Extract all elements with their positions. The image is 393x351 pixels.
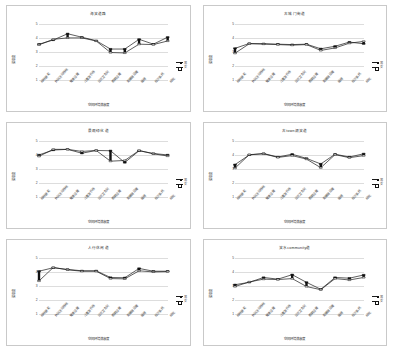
data-point-marker [291,274,294,275]
y-axis-tick-label: 2 [232,64,234,68]
plot-area: 54321绿地景观休闲活动场地健身设施儿童游乐场公共卫生间照明设施无障碍设施座椅… [39,141,168,197]
data-point-marker [234,48,237,49]
data-point-marker [95,150,98,151]
data-point-marker [277,279,280,280]
data-point-marker [320,167,323,168]
legend-label: 女 [184,182,187,187]
y-axis-tick-label: 4 [232,36,234,40]
panel-title: 人行休闲道 [7,245,190,250]
x-axis-title: 空间环境满意度 [204,336,387,341]
data-point-marker [248,281,251,282]
chart-panel-4: 古town湖滨道满意度空间环境满意度54321绿地景观休闲活动场地健身设施儿童游… [203,122,388,229]
legend-swatch-icon [372,62,379,63]
y-axis-tick-label: 1 [36,78,38,82]
x-axis-tick-label: 绿化 [168,310,176,318]
y-axis-tick-label: 4 [36,36,38,40]
y-axis-tick-label: 1 [36,195,38,199]
legend-swatch-icon [372,184,379,185]
data-point-marker [138,150,141,151]
legend-label: 女 [380,182,383,187]
x-axis-tick-label: 绿化 [364,193,372,201]
legend: 男女 [372,295,383,304]
data-point-marker [138,39,141,40]
data-point-marker [277,44,280,45]
data-point-marker [152,271,155,272]
data-point-marker [263,153,266,154]
x-axis-title: 空间环境满意度 [204,219,387,224]
data-point-marker [363,277,366,278]
series-line-女 [235,41,364,53]
data-point-marker [109,52,112,53]
y-axis-tick-label: 3 [36,167,38,171]
legend: 男女 [372,178,383,187]
y-axis-tick-label: 2 [36,64,38,68]
data-point-marker [306,158,309,159]
legend-item[interactable]: 女 [372,299,383,304]
data-point-marker [306,286,309,287]
data-point-marker [80,37,83,38]
legend-swatch-icon [176,62,183,63]
series-line-女 [39,38,168,53]
legend-item[interactable]: 女 [176,65,187,70]
data-point-marker [66,269,69,270]
chart-panel-1: 海滨道路满意度空间环境满意度54321绿地景观休闲活动场地健身设施儿童游乐场公共… [6,5,191,112]
legend-swatch-icon [372,179,379,180]
data-point-marker [52,267,55,268]
series-layer [39,24,168,80]
plot-area: 54321绿地景观休闲活动场地健身设施儿童游乐场公共卫生间照明设施无障碍设施座椅… [235,24,364,80]
small-multiples-grid: 海滨道路满意度空间环境满意度54321绿地景观休闲活动场地健身设施儿童游乐场公共… [0,0,393,351]
data-point-marker [348,42,351,43]
data-point-marker [348,279,351,280]
data-point-marker [66,33,69,34]
data-point-marker [320,163,323,164]
y-axis-tick-label: 2 [36,298,38,302]
legend-item[interactable]: 女 [176,182,187,187]
plot-area: 54321绿地景观休闲活动场地健身设施儿童游乐场公共卫生间照明设施无障碍设施座椅… [235,141,364,197]
data-point-marker [291,153,294,154]
x-axis-title: 空间环境满意度 [7,336,190,341]
panel-title: 古城门街道 [204,11,387,16]
data-point-marker [234,284,237,285]
data-point-marker [38,270,41,271]
x-axis-tick-label: 绿化 [168,76,176,84]
legend-swatch-icon [176,184,183,185]
data-point-marker [348,277,351,278]
legend-item[interactable]: 女 [372,182,383,187]
legend-label: 女 [184,299,187,304]
series-line-女 [235,277,364,289]
data-point-marker [123,52,126,53]
y-axis-tick-label: 5 [232,256,234,260]
data-point-marker [263,278,266,279]
series-layer [235,141,364,197]
series-layer [39,141,168,197]
y-axis-title: 满意度 [11,288,16,297]
data-point-marker [166,155,169,156]
data-point-marker [109,150,112,151]
data-point-marker [263,43,266,44]
legend: 男女 [176,61,187,70]
data-point-marker [138,270,141,271]
data-point-marker [263,277,266,278]
data-point-marker [109,160,112,161]
data-point-marker [306,44,309,45]
data-point-marker [291,155,294,156]
legend: 男女 [176,178,187,187]
data-point-marker [320,48,323,49]
x-axis-tick-label: 绿化 [364,310,372,318]
data-point-marker [291,44,294,45]
data-point-marker [138,268,141,269]
data-point-marker [248,43,251,44]
legend-item[interactable]: 女 [176,299,187,304]
legend-item[interactable]: 女 [372,65,383,70]
x-axis-tick-label: 绿化 [168,193,176,201]
y-axis-tick-label: 5 [36,139,38,143]
plot-area: 54321绿地景观休闲活动场地健身设施儿童游乐场公共卫生间照明设施无障碍设施座椅… [235,258,364,314]
data-point-marker [38,280,41,281]
data-point-marker [166,36,169,37]
y-axis-title: 满意度 [207,54,212,63]
y-axis-tick-label: 2 [232,181,234,185]
data-point-marker [123,162,126,163]
data-point-marker [166,271,169,272]
chart-panel-5: 人行休闲道满意度空间环境满意度54321绿地景观休闲活动场地健身设施儿童游乐场公… [6,239,191,346]
y-axis-tick-label: 4 [232,153,234,157]
